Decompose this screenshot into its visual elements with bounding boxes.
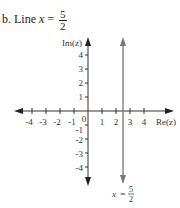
line-annotation: x = 5 2 <box>111 185 134 204</box>
complex-plane-plot: -4 -3 -2 -1 0 1 2 3 4 Re(z) 4 3 2 1 -1 -… <box>0 0 180 208</box>
x-tick-label: 2 <box>114 117 119 127</box>
y-tick-label: -2 <box>76 135 84 145</box>
x-tick-label: -2 <box>53 117 61 127</box>
x-tick-label: 4 <box>142 117 147 127</box>
line-up-arrow-icon <box>120 37 126 46</box>
y-tick-label: 1 <box>79 92 84 102</box>
y-tick-label: -1 <box>76 125 84 135</box>
x-tick-label: 3 <box>128 117 133 127</box>
y-axis-label: Im(z) <box>62 38 82 48</box>
x-axis-label: Re(z) <box>156 117 176 127</box>
annotation-numerator: 5 <box>129 185 133 194</box>
y-tick-label: -3 <box>76 149 84 159</box>
origin-label: 0 <box>82 114 87 124</box>
y-axis-up-arrow-icon <box>85 37 91 46</box>
y-tick-label: -4 <box>76 163 84 173</box>
y-axis-down-arrow-icon <box>85 177 91 186</box>
annotation-variable: x <box>111 189 116 199</box>
x-tick-label: -3 <box>39 117 47 127</box>
line-down-arrow-icon <box>120 175 126 184</box>
y-tick-label: 4 <box>79 50 84 60</box>
annotation-denominator: 2 <box>129 195 133 204</box>
annotation-equals: = <box>118 189 128 199</box>
x-tick-label: 1 <box>100 117 105 127</box>
x-axis-left-arrow-icon <box>14 108 23 114</box>
x-axis-right-arrow-icon <box>165 108 174 114</box>
y-tick-label: 3 <box>79 64 84 74</box>
x-axis: -4 -3 -2 -1 0 1 2 3 4 Re(z) <box>14 108 176 127</box>
x-tick-label: -4 <box>25 117 33 127</box>
y-tick-label: 2 <box>79 78 84 88</box>
